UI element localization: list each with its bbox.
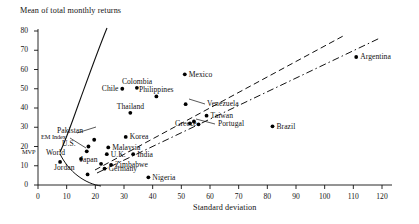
data-point-marker (354, 55, 358, 59)
data-point-marker (85, 149, 89, 153)
x-tick-label: 0 (26, 192, 50, 201)
scatter-chart: Mean of total monthly returns Standard d… (0, 0, 419, 224)
y-tick-label: 40 (6, 103, 28, 112)
x-tick-label: 20 (83, 192, 107, 201)
x-tick-label: 80 (255, 192, 279, 201)
data-point-marker (271, 124, 275, 128)
point-label-pakistan: Pakistan (57, 126, 83, 135)
data-point-marker (106, 146, 110, 150)
x-tick-label: 10 (55, 192, 79, 201)
x-tick-label: 90 (284, 192, 308, 201)
point-label-greece: Greece (175, 119, 197, 128)
point-label-mexico: Mexico (189, 70, 213, 79)
y-tick-label: 10 (6, 161, 28, 170)
point-label-brazil: Brazil (276, 122, 295, 131)
plot-area (0, 0, 419, 224)
data-point-marker (99, 162, 103, 166)
x-tick-label: 50 (169, 192, 193, 201)
point-label-mvp: MVP (22, 148, 36, 155)
point-label-jordan: Jordan (54, 163, 75, 172)
point-label-colombia: Colombia (122, 77, 152, 86)
data-point-marker (120, 87, 124, 91)
point-label-thailand: Thailand (117, 102, 144, 111)
x-tick-label: 110 (341, 192, 365, 201)
point-label-venezuela: Venezuela (207, 99, 239, 108)
point-label-zimbabwe: Zimbabwe (115, 160, 148, 169)
y-tick-label: 70 (6, 45, 28, 54)
data-point-marker (128, 111, 132, 115)
y-tick-label: 50 (6, 84, 28, 93)
y-tick-label: 60 (6, 65, 28, 74)
data-point-marker (154, 95, 158, 99)
point-label-philippines: Philippines (139, 85, 174, 94)
point-label-argentina: Argentina (360, 52, 391, 61)
point-label-india: India (137, 150, 153, 159)
data-point-marker (197, 122, 201, 126)
y-tick-marks (34, 31, 38, 185)
data-point-marker (205, 114, 209, 118)
y-tick-label: 80 (6, 26, 28, 35)
data-point-marker (184, 102, 188, 106)
data-point-marker (124, 135, 128, 139)
x-tick-label: 120 (370, 192, 394, 201)
y-tick-label: 0 (6, 180, 28, 189)
x-tick-label: 30 (112, 192, 136, 201)
point-label-portugal: Portugal (218, 119, 244, 128)
leader-venezuela (189, 99, 205, 104)
point-label-nigeria: Nigeria (152, 173, 175, 182)
point-label-korea: Korea (130, 132, 149, 141)
point-label-chile: Chile (102, 84, 119, 93)
x-tick-label: 60 (198, 192, 222, 201)
data-point-marker (86, 173, 90, 177)
data-point-marker (105, 152, 109, 156)
data-point-marker (183, 72, 187, 76)
data-point-marker (87, 145, 91, 149)
data-point-marker (92, 138, 96, 142)
x-tick-label: 100 (313, 192, 337, 201)
x-tick-label: 40 (141, 192, 165, 201)
data-point-marker (131, 152, 135, 156)
data-point-marker (146, 175, 150, 179)
x-tick-marks (38, 185, 382, 189)
point-label-u-s-: U.S. (62, 139, 76, 148)
y-tick-label: 30 (6, 122, 28, 131)
point-label-japan: Japan (80, 155, 98, 164)
point-label-world: World (46, 148, 65, 157)
data-point-marker (103, 167, 107, 171)
x-tick-label: 70 (227, 192, 251, 201)
